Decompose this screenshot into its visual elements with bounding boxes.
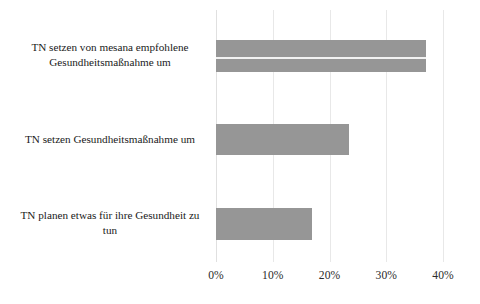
category-label-1: TN setzen Gesundheitsmaßnahme um — [10, 132, 210, 147]
bar-row — [216, 208, 443, 240]
gridline-40-percent — [443, 10, 444, 262]
category-label-2: TN planen etwas für ihre Gesundheit zu t… — [10, 208, 210, 238]
xtick-label: 30% — [366, 269, 406, 282]
bar-segment[interactable] — [216, 208, 312, 240]
category-label-0: TN setzen von mesana empfohlene Gesundhe… — [10, 40, 210, 70]
xtick-label: 40% — [423, 269, 463, 282]
category-label-line: TN planen etwas für ihre Gesundheit zu — [10, 208, 210, 223]
plot-area — [216, 10, 443, 262]
bar-segment[interactable] — [216, 40, 426, 72]
category-label-line: TN setzen Gesundheitsmaßnahme um — [10, 132, 210, 147]
category-label-line: Gesundheitsmaßnahme um — [10, 55, 210, 70]
bar-segment[interactable] — [216, 124, 349, 155]
bar-row — [216, 124, 443, 155]
bar-row — [216, 40, 443, 72]
category-label-line: TN setzen von mesana empfohlene — [10, 40, 210, 55]
scan-artifact-line — [216, 57, 426, 59]
bar-chart: TN setzen von mesana empfohlene Gesundhe… — [0, 0, 480, 304]
xtick-label: 10% — [253, 269, 293, 282]
xtick-label: 20% — [310, 269, 350, 282]
xtick-label: 0% — [196, 269, 236, 282]
category-label-line: tun — [10, 223, 210, 238]
